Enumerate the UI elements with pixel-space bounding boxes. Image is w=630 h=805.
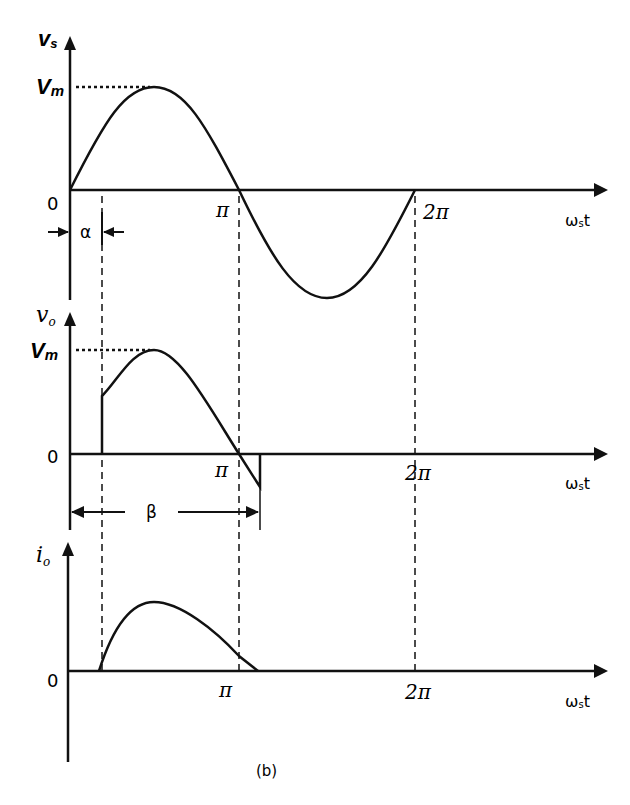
- io-2pi-label: 2π: [404, 680, 432, 704]
- panel-source-voltage: vs Vm 0 α π 2π ωst: [36, 26, 608, 300]
- beta-label: β: [146, 502, 157, 522]
- vs-y-label: vs: [38, 26, 57, 51]
- beta-arrow-right-icon: [246, 506, 259, 518]
- io-x-axis-arrow-icon: [594, 664, 608, 678]
- vs-peak-label: Vm: [36, 74, 64, 99]
- beta-arrow-left-icon: [71, 506, 84, 518]
- guide-lines: [102, 196, 415, 671]
- rectifier-waveform-diagram: vs Vm 0 α π 2π ωst vo: [0, 0, 630, 805]
- vo-x-axis-arrow-icon: [594, 447, 608, 461]
- vo-waveform: [102, 350, 260, 487]
- vo-pi-label: π: [214, 458, 229, 482]
- alpha-arrow-left-icon: [58, 227, 69, 237]
- alpha-arrow-right-icon: [103, 227, 114, 237]
- vo-origin-label: 0: [47, 446, 58, 467]
- vo-y-label: vo: [36, 302, 56, 329]
- vs-sine-curve: [70, 87, 415, 298]
- vs-pi-label: π: [215, 198, 230, 222]
- vs-x-axis-arrow-icon: [594, 183, 608, 197]
- io-pi-label: π: [218, 678, 233, 702]
- figure-caption: (b): [256, 762, 277, 780]
- vo-2pi-label: 2π: [404, 461, 432, 485]
- alpha-label: α: [80, 222, 91, 242]
- panel-output-current: io 0 π 2π ωst: [36, 542, 608, 762]
- vo-y-axis-arrow-icon: [64, 312, 76, 326]
- io-origin-label: 0: [47, 670, 58, 691]
- vo-peak-label: Vm: [30, 338, 58, 363]
- io-y-axis-arrow-icon: [62, 542, 74, 556]
- vs-origin-label: 0: [47, 193, 58, 214]
- io-x-label: ωst: [565, 692, 590, 711]
- panel-output-voltage: vo Vm 0 π 2π β ωst: [30, 302, 608, 530]
- vs-y-axis-arrow-icon: [64, 36, 76, 50]
- io-y-label: io: [36, 542, 50, 569]
- vs-x-label: ωst: [565, 211, 590, 230]
- vs-2pi-label: 2π: [422, 200, 450, 224]
- io-current-curve: [99, 602, 258, 671]
- vo-x-label: ωst: [565, 474, 590, 493]
